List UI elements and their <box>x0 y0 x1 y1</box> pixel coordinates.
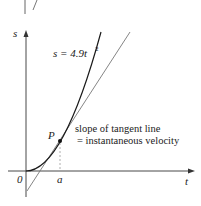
tangent-line-diagram: s t 0 a P s = 4.9t 2 slope of tangent li… <box>0 0 201 206</box>
point-label: P <box>47 129 55 141</box>
curve-label: s = 4.9t 2 <box>53 45 99 59</box>
y-axis-label: s <box>13 27 17 39</box>
origin-label: 0 <box>17 173 23 185</box>
annotation-line-1: slope of tangent line <box>75 123 161 134</box>
x-axis-arrow-icon <box>188 169 195 174</box>
a-tick-label: a <box>57 173 63 185</box>
previous-figure-fragment <box>25 0 37 14</box>
curve-label-main: s = 4.9t <box>53 47 88 59</box>
x-axis-label: t <box>185 175 189 187</box>
curve-label-exponent: 2 <box>95 45 99 53</box>
annotation-line-2: = instantaneous velocity <box>77 135 180 146</box>
point-p <box>58 139 62 143</box>
x-axis <box>8 169 195 174</box>
y-axis <box>24 30 29 197</box>
y-axis-arrow-icon <box>24 30 29 37</box>
